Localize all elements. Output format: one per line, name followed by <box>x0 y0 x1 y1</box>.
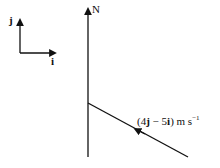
i-label: i <box>51 55 54 67</box>
j-label: j <box>9 14 13 26</box>
velocity-direction-arrow <box>137 130 145 134</box>
diagram-canvas <box>0 0 220 168</box>
velocity-label: (4j − 5i) m s−1 <box>137 114 200 127</box>
north-label: N <box>92 3 100 15</box>
